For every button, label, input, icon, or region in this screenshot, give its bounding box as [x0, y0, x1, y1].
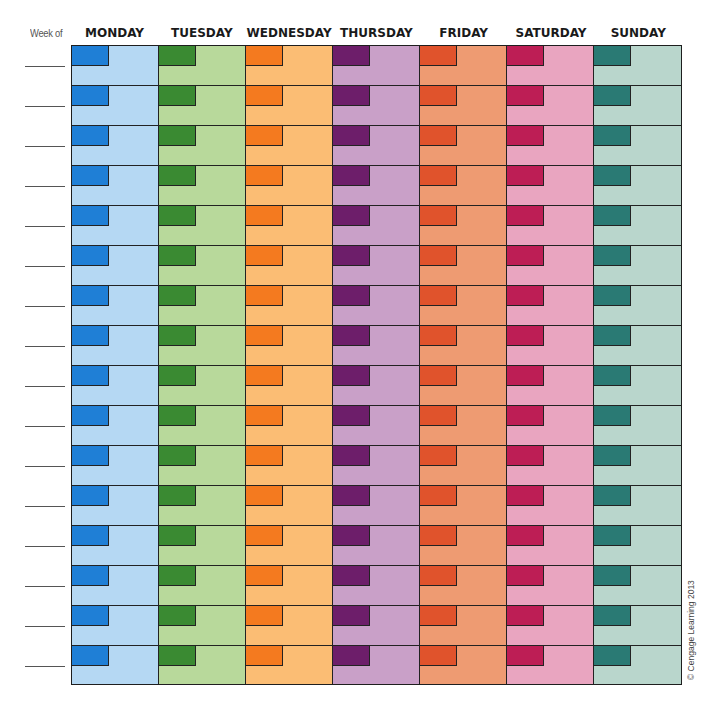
date-tab[interactable]: [246, 406, 283, 426]
date-tab[interactable]: [333, 606, 370, 626]
day-cell[interactable]: [594, 486, 681, 526]
date-tab[interactable]: [420, 86, 457, 106]
date-tab[interactable]: [420, 366, 457, 386]
date-tab[interactable]: [246, 526, 283, 546]
date-tab[interactable]: [420, 166, 457, 186]
date-tab[interactable]: [594, 566, 631, 586]
date-tab[interactable]: [507, 206, 544, 226]
date-tab[interactable]: [246, 286, 283, 306]
day-cell[interactable]: [159, 166, 245, 206]
date-tab[interactable]: [507, 326, 544, 346]
day-cell[interactable]: [507, 326, 593, 366]
day-cell[interactable]: [159, 86, 245, 126]
day-cell[interactable]: [507, 366, 593, 406]
date-tab[interactable]: [420, 406, 457, 426]
day-cell[interactable]: [246, 46, 332, 86]
date-tab[interactable]: [246, 366, 283, 386]
day-cell[interactable]: [72, 246, 158, 286]
day-cell[interactable]: [159, 246, 245, 286]
date-tab[interactable]: [420, 126, 457, 146]
date-tab[interactable]: [333, 406, 370, 426]
day-cell[interactable]: [333, 46, 419, 86]
day-cell[interactable]: [420, 206, 506, 246]
day-cell[interactable]: [246, 86, 332, 126]
date-tab[interactable]: [333, 126, 370, 146]
date-tab[interactable]: [72, 286, 109, 306]
date-tab[interactable]: [159, 166, 196, 186]
date-tab[interactable]: [159, 646, 196, 666]
week-of-line-2[interactable]: [25, 106, 65, 107]
date-tab[interactable]: [159, 566, 196, 586]
day-cell[interactable]: [420, 46, 506, 86]
day-cell[interactable]: [159, 486, 245, 526]
date-tab[interactable]: [420, 46, 457, 66]
day-cell[interactable]: [594, 526, 681, 566]
day-cell[interactable]: [159, 446, 245, 486]
week-of-line-10[interactable]: [25, 426, 65, 427]
day-cell[interactable]: [246, 566, 332, 606]
day-cell[interactable]: [420, 326, 506, 366]
day-cell[interactable]: [507, 646, 593, 686]
day-cell[interactable]: [159, 326, 245, 366]
date-tab[interactable]: [420, 446, 457, 466]
day-cell[interactable]: [507, 286, 593, 326]
date-tab[interactable]: [246, 246, 283, 266]
date-tab[interactable]: [72, 166, 109, 186]
week-of-line-13[interactable]: [25, 546, 65, 547]
day-cell[interactable]: [246, 646, 332, 686]
week-of-line-1[interactable]: [25, 66, 65, 67]
day-cell[interactable]: [72, 646, 158, 686]
date-tab[interactable]: [159, 526, 196, 546]
date-tab[interactable]: [333, 646, 370, 666]
date-tab[interactable]: [594, 526, 631, 546]
day-cell[interactable]: [72, 86, 158, 126]
day-cell[interactable]: [420, 166, 506, 206]
date-tab[interactable]: [507, 446, 544, 466]
date-tab[interactable]: [333, 46, 370, 66]
day-cell[interactable]: [72, 286, 158, 326]
date-tab[interactable]: [159, 246, 196, 266]
day-cell[interactable]: [159, 366, 245, 406]
date-tab[interactable]: [72, 46, 109, 66]
date-tab[interactable]: [507, 166, 544, 186]
day-cell[interactable]: [333, 446, 419, 486]
day-cell[interactable]: [72, 166, 158, 206]
date-tab[interactable]: [333, 446, 370, 466]
day-cell[interactable]: [420, 366, 506, 406]
day-cell[interactable]: [246, 446, 332, 486]
day-cell[interactable]: [594, 166, 681, 206]
day-cell[interactable]: [420, 286, 506, 326]
day-cell[interactable]: [72, 206, 158, 246]
week-of-line-12[interactable]: [25, 506, 65, 507]
date-tab[interactable]: [159, 606, 196, 626]
date-tab[interactable]: [159, 446, 196, 466]
date-tab[interactable]: [594, 126, 631, 146]
week-of-line-14[interactable]: [25, 586, 65, 587]
week-of-line-9[interactable]: [25, 386, 65, 387]
week-of-line-4[interactable]: [25, 186, 65, 187]
date-tab[interactable]: [159, 86, 196, 106]
day-cell[interactable]: [507, 406, 593, 446]
week-of-line-11[interactable]: [25, 466, 65, 467]
date-tab[interactable]: [246, 446, 283, 466]
day-cell[interactable]: [333, 526, 419, 566]
week-of-line-16[interactable]: [25, 666, 65, 667]
day-cell[interactable]: [159, 646, 245, 686]
day-cell[interactable]: [594, 286, 681, 326]
date-tab[interactable]: [507, 366, 544, 386]
day-cell[interactable]: [507, 486, 593, 526]
day-cell[interactable]: [159, 46, 245, 86]
day-cell[interactable]: [246, 206, 332, 246]
day-cell[interactable]: [159, 566, 245, 606]
day-cell[interactable]: [333, 366, 419, 406]
day-cell[interactable]: [507, 126, 593, 166]
date-tab[interactable]: [507, 526, 544, 546]
day-cell[interactable]: [159, 406, 245, 446]
day-cell[interactable]: [72, 406, 158, 446]
day-cell[interactable]: [420, 406, 506, 446]
day-cell[interactable]: [420, 446, 506, 486]
date-tab[interactable]: [246, 646, 283, 666]
date-tab[interactable]: [246, 606, 283, 626]
date-tab[interactable]: [333, 326, 370, 346]
day-cell[interactable]: [594, 46, 681, 86]
